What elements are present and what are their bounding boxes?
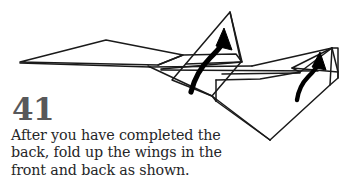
front-flap-fold-crease — [186, 62, 241, 64]
front-wing-fold-arrow — [191, 28, 232, 92]
caption-line-3: front and back as shown. — [11, 162, 251, 179]
caption-line-1: After you have completed the — [11, 127, 251, 144]
left-main-wing-top — [20, 40, 183, 65]
step-number: 41 — [12, 93, 251, 126]
caption-line-2: back, fold up the wings in the — [11, 144, 251, 161]
step-caption-block: 41 After you have completed the back, fo… — [11, 93, 251, 179]
fuselage-spine-lower — [161, 70, 318, 71]
mid-panel-upper-edge — [222, 73, 300, 74]
instruction-figure: 41 After you have completed the back, fo… — [0, 0, 356, 188]
